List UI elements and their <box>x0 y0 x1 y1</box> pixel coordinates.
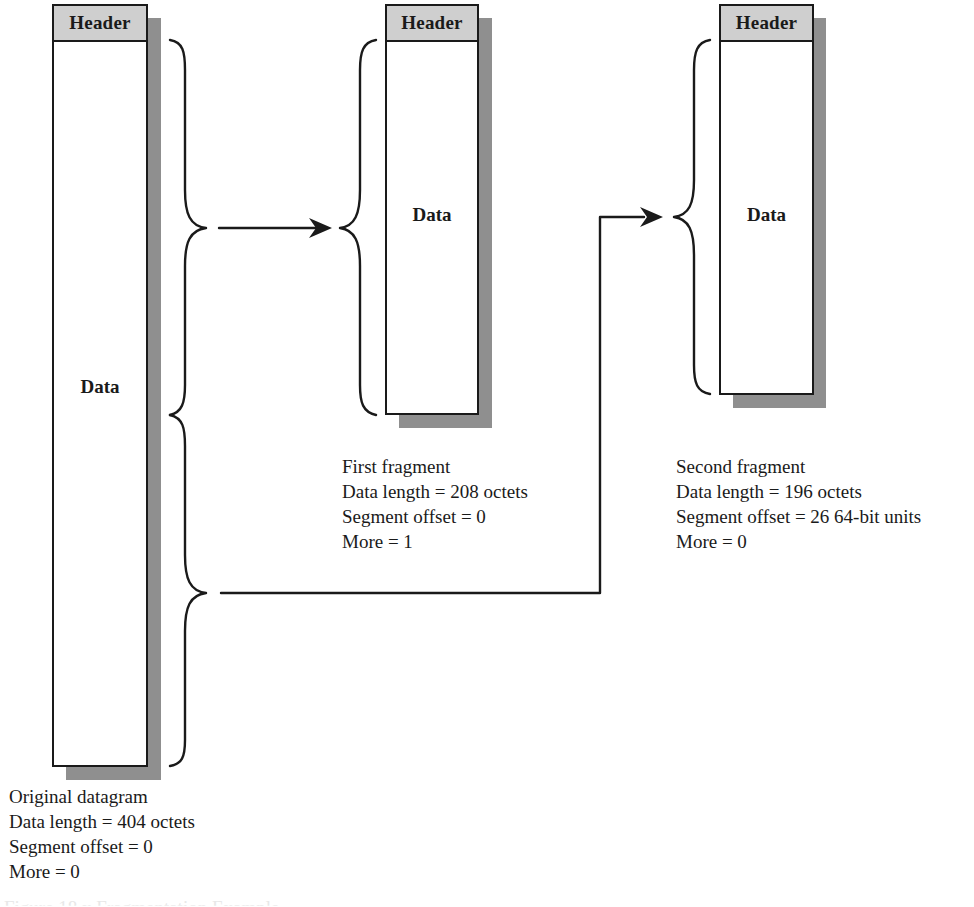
first-fragment-caption: First fragment Data length = 208 octets … <box>342 454 528 554</box>
second-caption-data-length: Data length = 196 octets <box>676 479 921 504</box>
original-caption-title: Original datagram <box>9 784 195 809</box>
brace-second-fragment <box>674 40 710 394</box>
figure-caption: Figure 18.x Fragmentation Example <box>4 897 279 907</box>
original-caption-data-length: Data length = 404 octets <box>9 809 195 834</box>
brace-second-portion <box>170 415 206 766</box>
second-caption-segment-offset: Segment offset = 26 64-bit units <box>676 504 921 529</box>
second-fragment-caption: Second fragment Data length = 196 octets… <box>676 454 921 554</box>
fragmentation-diagram: Header Data Header Data Header Data <box>0 0 974 907</box>
first-caption-more: More = 1 <box>342 529 528 554</box>
second-caption-title: Second fragment <box>676 454 921 479</box>
original-datagram-caption: Original datagram Data length = 404 octe… <box>9 784 195 884</box>
first-caption-segment-offset: Segment offset = 0 <box>342 504 528 529</box>
original-caption-segment-offset: Segment offset = 0 <box>9 834 195 859</box>
original-caption-more: More = 0 <box>9 859 195 884</box>
first-caption-title: First fragment <box>342 454 528 479</box>
brace-first-fragment <box>340 40 376 415</box>
second-caption-more: More = 0 <box>676 529 921 554</box>
brace-first-portion <box>170 40 206 415</box>
first-caption-data-length: Data length = 208 octets <box>342 479 528 504</box>
